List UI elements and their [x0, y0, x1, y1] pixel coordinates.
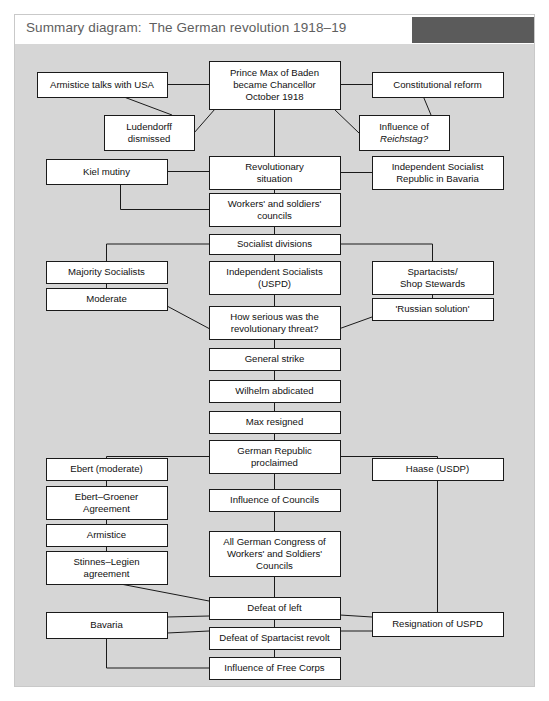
node-wilhelm_abd[interactable]: Wilhelm abdicated [210, 381, 341, 403]
node-label: Resignation of USPD [392, 618, 483, 629]
node-label: Constitutional reform [393, 78, 482, 89]
node-armistice_usa[interactable]: Armistice talks with USA [38, 73, 168, 98]
node-label: How serious was therevolutionary threat? [230, 310, 319, 333]
connector [167, 306, 209, 329]
node-defeat_left[interactable]: Defeat of left [210, 598, 341, 620]
node-label: 'Russian solution' [395, 303, 469, 314]
node-bavaria_isr[interactable]: Independent SocialistRepublic in Bavaria [373, 157, 504, 190]
node-const_reform[interactable]: Constitutional reform [373, 73, 504, 98]
connector [194, 109, 215, 133]
node-label: General strike [245, 353, 305, 364]
connector [340, 244, 433, 261]
node-label: Ebert–GroenerAgreement [75, 490, 139, 513]
node-workers_councils[interactable]: Workers' and soldiers'councils [210, 194, 341, 227]
node-label: Defeat of left [247, 602, 302, 613]
node-label: Influence ofReichstag? [379, 120, 429, 143]
connector [121, 584, 210, 601]
node-how_serious[interactable]: How serious was therevolutionary threat? [210, 307, 341, 340]
node-general_strike[interactable]: General strike [210, 349, 341, 371]
flowchart-canvas: Armistice talks with USAPrince Max of Ba… [0, 0, 549, 701]
node-label: Haase (USDP) [406, 463, 469, 474]
node-german_republic[interactable]: German Republicproclaimed [210, 441, 341, 474]
node-label: Kiel mutiny [83, 165, 130, 176]
node-resignation_uspd[interactable]: Resignation of USPD [373, 613, 504, 637]
connector [121, 184, 210, 210]
node-bavaria[interactable]: Bavaria [47, 613, 168, 639]
node-label: Spartacists/Shop Stewards [400, 265, 465, 288]
node-indep_soc[interactable]: Independent Socialists(USPD) [210, 262, 341, 295]
connector [107, 638, 210, 668]
node-label: Ebert (moderate) [70, 463, 143, 474]
node-label: Max resigned [246, 416, 304, 427]
node-label: Independent SocialistRepublic in Bavaria [392, 160, 484, 183]
node-russian_sol[interactable]: 'Russian solution' [373, 299, 494, 321]
node-majority_soc[interactable]: Majority Socialists [47, 262, 168, 284]
node-label: Influence of Free Corps [224, 662, 324, 673]
node-haase[interactable]: Haase (USDP) [373, 459, 504, 481]
node-ebert_groener[interactable]: Ebert–GroenerAgreement [47, 487, 168, 520]
node-label: Ludendorffdismissed [126, 120, 172, 143]
node-armistice[interactable]: Armistice [47, 525, 168, 547]
node-stinnes_legien[interactable]: Stinnes–Legienagreement [47, 552, 168, 585]
node-label: Wilhelm abdicated [235, 385, 313, 396]
node-moderate[interactable]: Moderate [47, 289, 168, 311]
node-spartacists[interactable]: Spartacists/Shop Stewards [373, 262, 494, 295]
node-soc_divisions[interactable]: Socialist divisions [210, 235, 341, 255]
node-rev_situation[interactable]: Revolutionarysituation [210, 157, 341, 190]
node-max_resigned[interactable]: Max resigned [210, 412, 341, 434]
connector [167, 616, 209, 617]
node-label: Armistice [87, 529, 126, 540]
connector [107, 457, 210, 459]
node-layer: Armistice talks with USAPrince Max of Ba… [38, 62, 504, 680]
node-influence_reich[interactable]: Influence ofReichstag? [360, 116, 450, 151]
connector [340, 615, 372, 617]
connector [124, 97, 172, 115]
connector [107, 244, 210, 261]
node-ebert_mod[interactable]: Ebert (moderate) [47, 459, 168, 481]
node-all_german_cong[interactable]: All German Congress ofWorkers' and Soldi… [210, 532, 341, 577]
connector [340, 317, 372, 329]
node-free_corps[interactable]: Influence of Free Corps [210, 658, 341, 680]
connector [340, 457, 438, 459]
node-label: Bavaria [90, 619, 123, 630]
node-prince_max[interactable]: Prince Max of Badenbecame ChancellorOcto… [210, 62, 341, 110]
node-label: Armistice talks with USA [50, 78, 155, 89]
connector [167, 631, 209, 633]
node-label: Moderate [86, 293, 127, 304]
node-kiel_mutiny[interactable]: Kiel mutiny [47, 160, 168, 185]
node-label: Influence of Councils [230, 494, 319, 505]
node-label: Majority Socialists [68, 266, 145, 277]
node-influence_counc[interactable]: Influence of Councils [210, 490, 341, 512]
node-label: Defeat of Spartacist revolt [219, 632, 330, 643]
connector [424, 97, 432, 115]
node-ludendorff[interactable]: Ludendorffdismissed [105, 116, 195, 151]
connector [334, 109, 359, 133]
node-label: Socialist divisions [237, 238, 312, 249]
node-defeat_spart[interactable]: Defeat of Spartacist revolt [210, 628, 341, 650]
diagram-page: Summary diagram: The German revolution 1… [0, 0, 549, 701]
